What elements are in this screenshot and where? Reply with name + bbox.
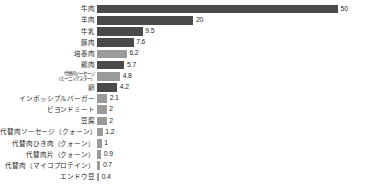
bar-track: 50 — [97, 4, 371, 14]
category-label: 代替肉ソーセージ（モーニングスター） — [0, 71, 97, 81]
bar-track: 2 — [97, 105, 371, 115]
horizontal-bar-chart: 牛肉50羊肉20牛乳9.5豚肉7.6培養肉6.2鶏肉5.7代替肉ソーセージ（モー… — [0, 0, 371, 188]
bar-row: ビヨンドミート2 — [0, 105, 371, 115]
category-label: 豚肉 — [0, 39, 97, 47]
value-label: 5.7 — [124, 62, 136, 69]
bar-track: 2.1 — [97, 94, 371, 104]
category-label: 代替肉（マイコプロテイン） — [0, 162, 97, 170]
bar-row: 羊肉20 — [0, 15, 371, 25]
bar-row: 培養肉6.2 — [0, 49, 371, 59]
bar-track: 20 — [97, 15, 371, 25]
bar-row: 代替肉ソーセージ（クォーン）1.2 — [0, 127, 371, 137]
category-label: 牛肉 — [0, 5, 97, 13]
value-label: 7.6 — [134, 39, 146, 46]
category-label: インポッシブルバーガー — [0, 95, 97, 103]
bar-row: 豆腐2 — [0, 116, 371, 126]
category-label-line2: （モーニングスター） — [0, 76, 95, 81]
bar — [97, 105, 107, 114]
value-label: 2 — [107, 106, 113, 113]
value-label: 2 — [107, 118, 113, 125]
value-label: 2.1 — [107, 95, 119, 102]
bar-row: 鶏肉5.7 — [0, 60, 371, 70]
bar-row: 牛肉50 — [0, 4, 371, 14]
bar — [97, 83, 117, 92]
value-label: 0.9 — [101, 151, 113, 158]
category-label: 牛乳 — [0, 28, 97, 36]
category-label: 代替肉ひき肉（クォーン） — [0, 140, 97, 148]
bar — [97, 16, 193, 25]
bar — [97, 72, 120, 81]
bar-row: 代替肉（マイコプロテイン）0.7 — [0, 161, 371, 171]
bar-track: 7.6 — [97, 38, 371, 48]
bar-track: 4.8 — [97, 71, 371, 81]
bar-row: 代替肉片（クォーン）0.9 — [0, 149, 371, 159]
bar-track: 6.2 — [97, 49, 371, 59]
value-label: 9.5 — [143, 28, 155, 35]
bar-row: 卵4.2 — [0, 82, 371, 92]
bar-row: エンドウ豆0.4 — [0, 172, 371, 182]
value-label: 20 — [193, 17, 203, 24]
bar — [97, 38, 134, 47]
category-label: ビヨンドミート — [0, 106, 97, 114]
bar — [97, 50, 127, 59]
value-label: 4.8 — [120, 73, 132, 80]
bar — [97, 27, 143, 36]
category-label: 豆腐 — [0, 117, 97, 125]
bar — [97, 94, 107, 103]
category-label: 鶏肉 — [0, 61, 97, 69]
category-label: 卵 — [0, 84, 97, 92]
bar — [97, 61, 124, 70]
bar-track: 0.9 — [97, 149, 371, 159]
bar-track: 5.7 — [97, 60, 371, 70]
value-label: 0.4 — [99, 174, 111, 181]
bar-track: 1.2 — [97, 127, 371, 137]
bar-row: 牛乳9.5 — [0, 26, 371, 36]
value-label: 0.7 — [100, 162, 112, 169]
value-label: 4.2 — [117, 84, 129, 91]
category-label: 代替肉ソーセージ（クォーン） — [0, 128, 97, 136]
bar-track: 1 — [97, 138, 371, 148]
bar-track: 0.4 — [97, 172, 371, 182]
bar-track: 2 — [97, 116, 371, 126]
bar — [97, 5, 338, 14]
bar-track: 4.2 — [97, 82, 371, 92]
value-label: 1.2 — [103, 129, 115, 136]
bar-row: インポッシブルバーガー2.1 — [0, 94, 371, 104]
bar-row: 豚肉7.6 — [0, 38, 371, 48]
value-label: 1 — [102, 140, 108, 147]
bar-track: 0.7 — [97, 161, 371, 171]
category-label: エンドウ豆 — [0, 173, 97, 181]
bar-track: 9.5 — [97, 26, 371, 36]
category-label: 培養肉 — [0, 50, 97, 58]
category-label: 代替肉片（クォーン） — [0, 151, 97, 159]
category-label: 羊肉 — [0, 16, 97, 24]
value-label: 50 — [338, 6, 348, 13]
value-label: 6.2 — [127, 50, 139, 57]
bar-row: 代替肉ひき肉（クォーン）1 — [0, 138, 371, 148]
bar — [97, 117, 107, 126]
bar-row: 代替肉ソーセージ（モーニングスター）4.8 — [0, 71, 371, 81]
